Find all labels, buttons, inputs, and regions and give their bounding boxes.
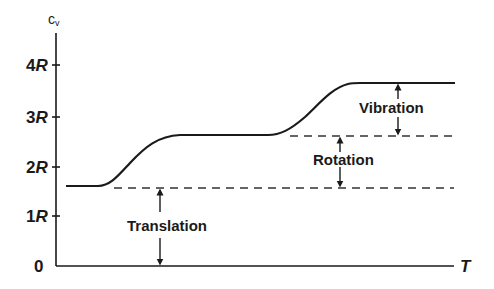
tick-label-3r: 3R xyxy=(26,108,48,127)
tick-label-zero: 0 xyxy=(34,257,43,276)
tick-label-1r: 1R xyxy=(26,207,48,226)
x-axis-label: T xyxy=(460,257,472,276)
cv-chart: cv 4R 3R 2R 1R 0 T Translation Rotation … xyxy=(0,0,494,289)
tick-label-2r: 2R xyxy=(26,158,48,177)
tick-label-4r: 4R xyxy=(26,56,48,75)
rotation-label: Rotation xyxy=(313,151,374,168)
y-axis-label: cv xyxy=(48,11,60,28)
translation-label: Translation xyxy=(127,217,207,234)
vibration-label: Vibration xyxy=(359,99,424,116)
